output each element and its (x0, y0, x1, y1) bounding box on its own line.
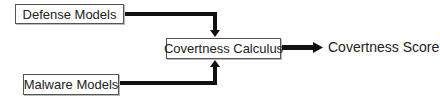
covertness-calculus-label: Covertness Calculus (164, 41, 283, 56)
defense-models-label: Defense Models (23, 7, 117, 22)
covertness-score-label: Covertness Score (328, 39, 439, 55)
covertness-calculus-node: Covertness Calculus (166, 38, 281, 59)
malware-models-node: Malware Models (23, 74, 119, 95)
calculus-to-score-arrow (282, 42, 323, 53)
defense-to-calculus-arrow (124, 14, 220, 37)
malware-models-label: Malware Models (24, 77, 119, 92)
malware-to-calculus-arrow (119, 60, 220, 83)
defense-models-node: Defense Models (15, 4, 124, 24)
